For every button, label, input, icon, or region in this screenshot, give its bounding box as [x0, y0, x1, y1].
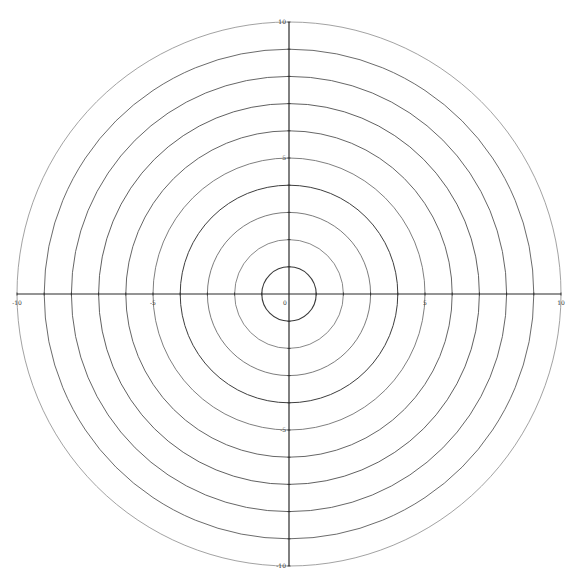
x-axis-label: 0 [283, 299, 287, 306]
y-axis-label: -10 [276, 562, 286, 569]
x-axis-label: 10 [557, 299, 565, 306]
y-axis-label: 10 [278, 18, 286, 25]
x-axis-label: 5 [423, 299, 427, 306]
polar-grid-diagram: -10-50510105-5-10 [0, 0, 567, 578]
y-axis-label: 5 [282, 154, 286, 161]
y-axis-label: -5 [280, 426, 286, 433]
x-axis-label: -5 [150, 299, 156, 306]
x-axis-label: -10 [12, 299, 22, 306]
